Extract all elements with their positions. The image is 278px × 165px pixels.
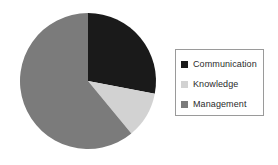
- legend-swatch-knowledge-icon: [181, 81, 188, 88]
- legend-label-communication: Communication: [193, 59, 257, 70]
- chart-legend: Communication Knowledge Management: [175, 49, 264, 116]
- pie-svg: [0, 0, 172, 165]
- legend-label-knowledge: Knowledge: [193, 79, 238, 90]
- legend-swatch-communication-icon: [181, 61, 188, 68]
- legend-item-management: Management: [181, 95, 263, 114]
- legend-label-management: Management: [193, 99, 247, 110]
- pie-plot-area: [0, 0, 172, 165]
- legend-swatch-management-icon: [181, 101, 188, 108]
- pie-chart: Communication Knowledge Management: [0, 0, 278, 165]
- legend-item-knowledge: Knowledge: [181, 75, 263, 94]
- pie-slice-communication: [88, 13, 156, 94]
- legend-item-communication: Communication: [181, 55, 263, 74]
